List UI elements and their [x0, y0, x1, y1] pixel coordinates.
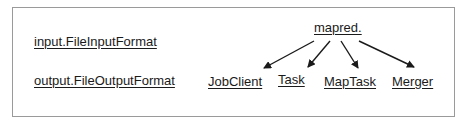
arrows — [0, 0, 473, 124]
arrow-to-maptask — [341, 41, 358, 68]
arrow-to-merger — [359, 41, 414, 67]
arrow-to-task — [308, 41, 330, 67]
arrow-to-jobclient — [264, 41, 314, 68]
